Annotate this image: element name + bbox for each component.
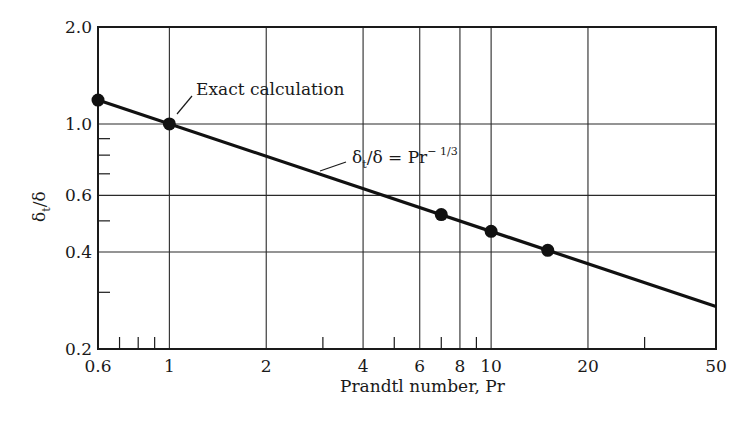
y-tick-label: 0.2 xyxy=(65,339,92,359)
x-tick-labels: 0.612468102050 xyxy=(84,356,726,376)
x-tick-label: 2 xyxy=(261,356,272,376)
x-tick-label: 50 xyxy=(705,356,727,376)
exact-leader-line xyxy=(177,96,192,114)
x-axis-title: Prandtl number, Pr xyxy=(340,376,506,396)
plot-frame xyxy=(98,27,716,349)
minor-ticks xyxy=(98,139,645,349)
y-axis-title: δt/δ xyxy=(29,191,53,222)
x-tick-label: 20 xyxy=(577,356,599,376)
exact-data-point xyxy=(435,208,448,221)
x-tick-label: 1 xyxy=(164,356,175,376)
x-tick-label: 6 xyxy=(414,356,425,376)
correlation-line xyxy=(98,100,716,306)
data-series xyxy=(92,94,717,307)
exact-calculation-label: Exact calculation xyxy=(196,79,345,99)
x-tick-label: 10 xyxy=(480,356,502,376)
formula-leader-line xyxy=(320,162,346,171)
x-tick-label: 8 xyxy=(455,356,466,376)
formula-label: δt/δ = Pr− 1/3 xyxy=(352,145,458,171)
x-tick-label: 4 xyxy=(358,356,369,376)
chart: 0.612468102050 0.20.40.61.02.0 Exact cal… xyxy=(0,0,752,428)
y-tick-labels: 0.20.40.61.02.0 xyxy=(65,17,92,359)
exact-data-point xyxy=(541,244,554,257)
y-tick-label: 0.6 xyxy=(65,185,92,205)
exact-data-point xyxy=(163,117,176,130)
y-tick-label: 1.0 xyxy=(65,114,92,134)
x-tick-label: 0.6 xyxy=(84,356,111,376)
exact-data-point xyxy=(485,225,498,238)
exact-data-point xyxy=(92,94,105,107)
y-tick-label: 2.0 xyxy=(65,17,92,37)
gridlines xyxy=(98,27,716,349)
y-tick-label: 0.4 xyxy=(65,242,92,262)
